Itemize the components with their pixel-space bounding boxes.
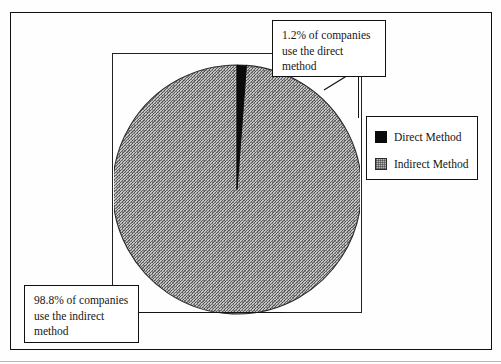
chart-legend: Direct Method Indirect Method bbox=[366, 116, 478, 180]
legend-item-indirect-method[interactable]: Indirect Method bbox=[375, 153, 477, 175]
pie-chart-svg bbox=[114, 62, 360, 317]
callout-direct-line-2: use the direct bbox=[282, 44, 377, 60]
callout-direct-method[interactable]: 1.2% of companies use the direct method bbox=[272, 20, 386, 77]
callout-indirect-line-1: 98.8% of companies bbox=[34, 293, 130, 309]
callout-indirect-method[interactable]: 98.8% of companies use the indirect meth… bbox=[24, 285, 139, 343]
scanned-page: 1.2% of companies use the direct method … bbox=[0, 0, 501, 364]
callout-indirect-line-3: method bbox=[34, 324, 130, 340]
leader-line-indirect bbox=[138, 312, 284, 313]
legend-swatch-indirect-icon bbox=[375, 158, 387, 170]
page-edge-line bbox=[0, 361, 501, 362]
callout-indirect-line-2: use the indirect bbox=[34, 309, 130, 325]
leader-line-vertical bbox=[358, 76, 359, 118]
callout-direct-line-1: 1.2% of companies bbox=[282, 28, 377, 44]
legend-label-indirect: Indirect Method bbox=[394, 158, 468, 171]
callout-direct-line-3: method bbox=[282, 59, 377, 75]
pie-chart bbox=[114, 62, 360, 317]
legend-label-direct: Direct Method bbox=[394, 131, 461, 144]
legend-item-direct-method[interactable]: Direct Method bbox=[375, 126, 477, 148]
legend-swatch-direct-icon bbox=[375, 131, 387, 143]
